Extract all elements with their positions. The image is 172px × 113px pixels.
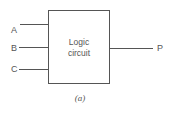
input-label-a: A — [11, 25, 17, 35]
output-label-p: P — [157, 43, 163, 53]
block-label-line2: circuit — [68, 48, 91, 58]
block-label-line1: Logic — [69, 37, 90, 47]
figure-caption: (a) — [75, 93, 86, 103]
logic-circuit-diagram: Logic circuit A B C P (a) — [0, 0, 172, 113]
input-label-c: C — [11, 64, 18, 74]
logic-circuit-block — [49, 11, 110, 84]
input-label-b: B — [11, 43, 17, 53]
